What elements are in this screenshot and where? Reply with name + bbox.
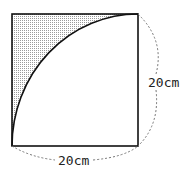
geometry-figure: 20cm 20cm [0, 0, 192, 173]
shaded-region [12, 14, 138, 146]
label-right-side: 20cm [148, 75, 179, 90]
label-bottom-side: 20cm [58, 153, 89, 168]
